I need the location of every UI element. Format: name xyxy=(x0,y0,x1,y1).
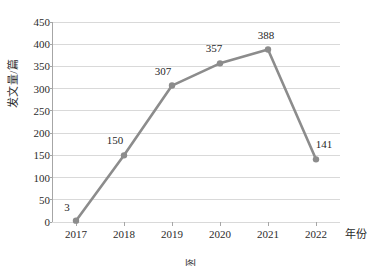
figure-caption-text: 图 xyxy=(0,259,381,266)
x-tick-label: 2022 xyxy=(305,229,327,240)
figure-caption-clipped: 图 xyxy=(0,259,381,266)
x-tick-label: 2021 xyxy=(257,229,279,240)
x-tick-label: 2019 xyxy=(161,229,183,240)
x-tick-label: 2018 xyxy=(113,229,135,240)
x-axis-title: 年份 xyxy=(345,229,367,240)
x-axis-tick-labels: 年份 201720182019202020212022 xyxy=(0,0,381,266)
x-tick-label: 2017 xyxy=(65,229,87,240)
figure-line-chart: 发文量/篇 450400350300250200150100500 315030… xyxy=(0,0,381,266)
x-tick-label: 2020 xyxy=(209,229,231,240)
